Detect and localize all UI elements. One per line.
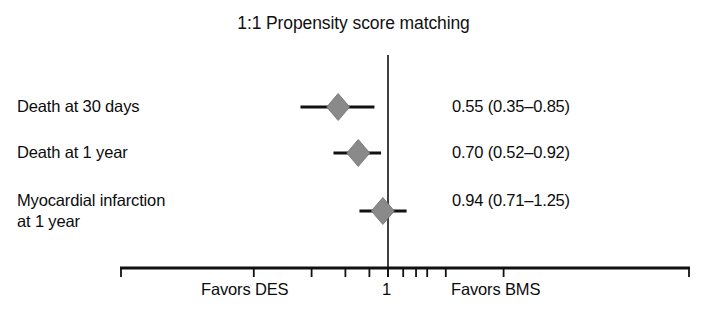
- ci-rows-group: [300, 94, 406, 225]
- forest-plot-figure: 1:1 Propensity score matching Death at 3…: [0, 0, 705, 317]
- axis-label-favors-bms: Favors BMS: [451, 280, 540, 299]
- point-estimate-diamond-1: [347, 140, 370, 167]
- forest-plot-graphics: [0, 0, 705, 317]
- point-estimate-diamond-2: [371, 198, 394, 225]
- point-estimate-diamond-0: [327, 94, 350, 121]
- forest-row-1: [333, 140, 381, 167]
- forest-row-0: [300, 94, 374, 121]
- forest-row-2: [359, 198, 406, 225]
- axis-label-favors-des: Favors DES: [201, 280, 288, 299]
- x-axis-group: [120, 268, 690, 277]
- axis-tick-label-one: 1: [382, 280, 391, 299]
